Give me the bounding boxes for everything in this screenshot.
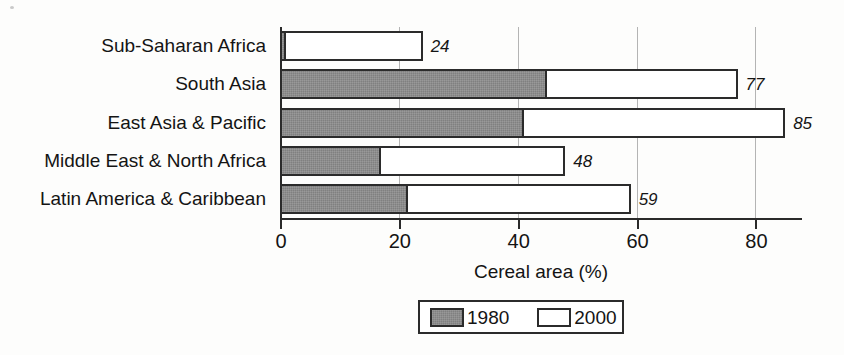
x-axis-title: Cereal area (%): [280, 262, 802, 281]
x-tick-label-60: 60: [626, 231, 648, 251]
bar-row: 59: [280, 184, 800, 214]
category-label: Sub-Saharan Africa: [0, 36, 274, 55]
x-tick-label-20: 20: [389, 231, 411, 251]
x-tick-label-80: 80: [745, 231, 767, 251]
bar-1980: [280, 31, 286, 61]
x-tick-label-40: 40: [508, 231, 530, 251]
bar-value-label: 24: [431, 38, 450, 55]
bar-row: 48: [280, 146, 800, 176]
x-tick-label-0: 0: [275, 231, 286, 251]
x-tick-mark-80: [755, 220, 757, 229]
legend-label-1980: 1980: [467, 308, 509, 327]
bar-1980: [280, 146, 381, 176]
bar-1980: [280, 108, 524, 138]
scan-artifact: [10, 6, 14, 9]
bar-row: 85: [280, 108, 800, 138]
legend-entry-1980: 1980: [430, 302, 509, 332]
bar-row: 77: [280, 69, 800, 99]
plot-area: 2477854859: [280, 27, 800, 218]
bar-value-label: 59: [639, 190, 658, 207]
category-label: East Asia & Pacific: [0, 113, 274, 132]
x-tick-mark-20: [399, 220, 401, 229]
category-label-column: Sub-Saharan AfricaSouth AsiaEast Asia & …: [0, 27, 274, 218]
x-tick-mark-40: [518, 220, 520, 229]
x-tick-mark-0: [280, 220, 282, 229]
bar-1980: [280, 69, 547, 99]
legend-swatch-2000-icon: [537, 308, 571, 327]
bar-value-label: 77: [746, 76, 765, 93]
category-label: Middle East & North Africa: [0, 151, 274, 170]
chart-legend: 1980 2000: [418, 300, 624, 334]
legend-label-2000: 2000: [574, 308, 616, 327]
bar-row: 24: [280, 31, 800, 61]
x-tick-mark-60: [637, 220, 639, 229]
category-label: South Asia: [0, 74, 274, 93]
bar-1980: [280, 184, 408, 214]
bar-2000: [280, 31, 423, 61]
legend-swatch-1980-icon: [430, 308, 464, 327]
category-label: Latin America & Caribbean: [0, 189, 274, 208]
chart-page: Sub-Saharan AfricaSouth AsiaEast Asia & …: [0, 0, 844, 355]
bar-value-label: 85: [793, 114, 812, 131]
x-axis-line: [280, 218, 802, 220]
legend-entry-2000: 2000: [537, 302, 616, 332]
bar-value-label: 48: [573, 152, 592, 169]
